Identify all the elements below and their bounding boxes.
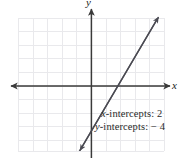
coordinate-plane-svg <box>0 0 183 158</box>
graph-figure: y x x-intercepts: 2 y-intercepts: − 4 <box>0 0 183 158</box>
